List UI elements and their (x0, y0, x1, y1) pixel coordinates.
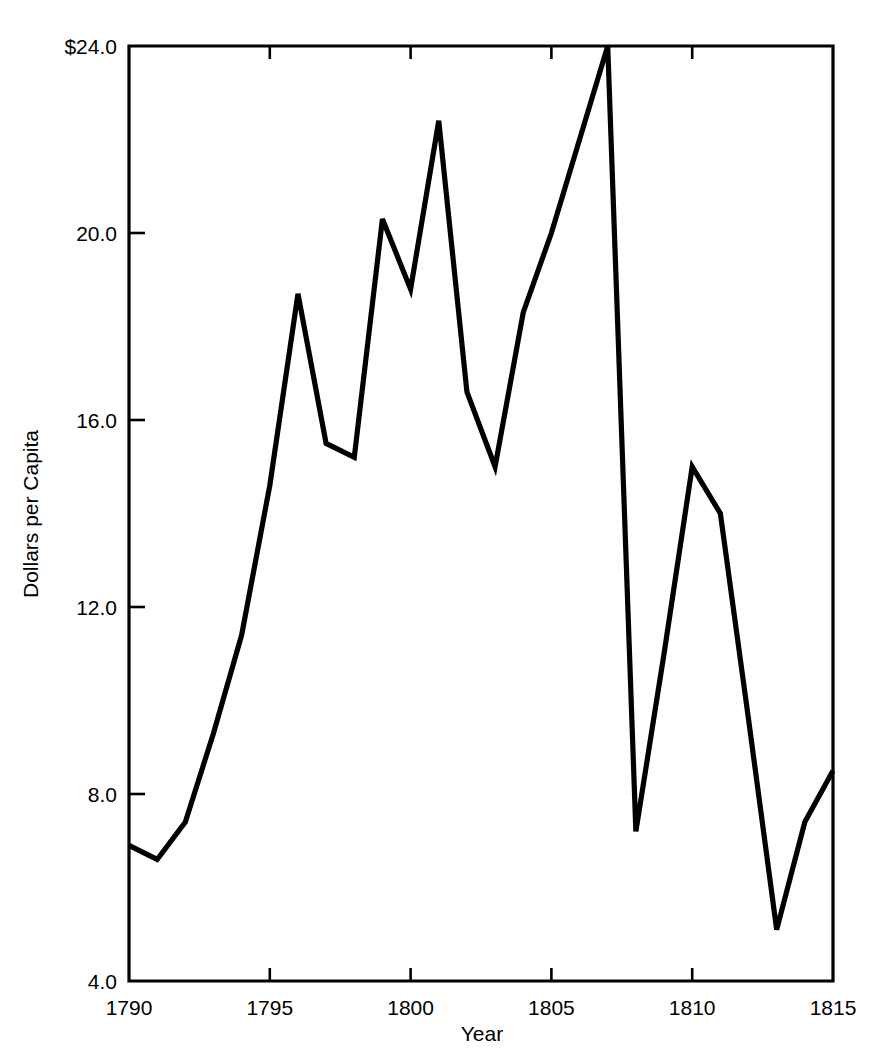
figure-container: 179017951800180518101815 $24.020.016.012… (0, 0, 887, 1063)
x-tick-label: 1805 (528, 996, 575, 1019)
data-line (129, 46, 833, 930)
y-tick-label: $24.0 (64, 35, 117, 58)
x-tick-label: 1815 (810, 996, 857, 1019)
x-tick-label: 1795 (246, 996, 293, 1019)
plot-frame (129, 46, 833, 981)
y-axis-tick-labels: $24.020.016.012.08.04.0 (64, 35, 117, 993)
y-axis-title: Dollars per Capita (19, 430, 42, 598)
y-tick-label: 12.0 (76, 596, 117, 619)
y-tick-label: 8.0 (88, 783, 117, 806)
x-tick-label: 1790 (106, 996, 153, 1019)
x-axis-tick-labels: 179017951800180518101815 (106, 996, 857, 1019)
x-axis-ticks (270, 46, 692, 981)
y-axis-ticks (129, 233, 145, 794)
y-tick-label: 16.0 (76, 409, 117, 432)
x-axis-title: Year (461, 1022, 503, 1045)
y-tick-label: 4.0 (88, 970, 117, 993)
data-series-group (129, 46, 833, 930)
line-chart: 179017951800180518101815 $24.020.016.012… (0, 0, 887, 1063)
x-tick-label: 1810 (669, 996, 716, 1019)
plot-border (129, 46, 833, 981)
y-tick-label: 20.0 (76, 222, 117, 245)
x-tick-label: 1800 (387, 996, 434, 1019)
